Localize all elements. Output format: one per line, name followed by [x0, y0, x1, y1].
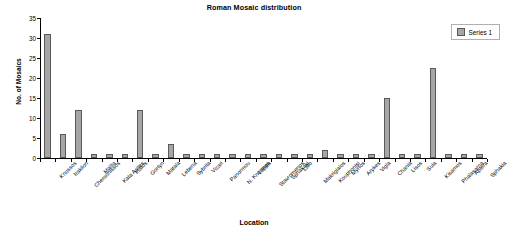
- bar: [106, 154, 112, 158]
- bar: [199, 154, 205, 158]
- chart-title: Roman Mosaic distribution: [0, 3, 508, 12]
- x-tick-label: Lebena: [180, 160, 197, 177]
- bar: [152, 154, 158, 158]
- x-axis-line: [40, 158, 487, 159]
- bar: [368, 154, 374, 158]
- y-tick-label: 30: [29, 35, 36, 42]
- y-tick-label: 25: [29, 55, 36, 62]
- x-axis-title: Location: [0, 219, 508, 226]
- bar-chart: Roman Mosaic distribution No. of Mosaics…: [0, 0, 508, 234]
- bar: [214, 154, 220, 158]
- bar: [91, 154, 97, 158]
- x-tick-label: Matala: [165, 160, 181, 176]
- x-tick-label: Lappa: [257, 160, 272, 175]
- y-tick-label: 20: [29, 75, 36, 82]
- y-tick-label: 15: [29, 95, 36, 102]
- chart-legend: Series 1: [451, 24, 500, 40]
- bar: [137, 110, 143, 158]
- x-tick-label: Gortyn: [149, 160, 165, 176]
- bar: [414, 154, 420, 158]
- bar: [75, 110, 81, 158]
- bar: [122, 154, 128, 158]
- y-tick-label: 10: [29, 115, 36, 122]
- bar: [60, 134, 66, 158]
- bar: [445, 154, 451, 158]
- x-tick-mark: [487, 159, 488, 162]
- x-tick-label: Sybrita: [196, 160, 213, 177]
- bar: [476, 154, 482, 158]
- y-tick-label: 0: [32, 155, 36, 162]
- x-tick-label: Kisamos: [443, 160, 462, 179]
- bar: [168, 144, 174, 158]
- x-tick-label: Myrtos: [349, 160, 365, 176]
- bar: [229, 154, 235, 158]
- y-axis-title: No. of Mosaics: [15, 37, 22, 127]
- bar: [276, 154, 282, 158]
- x-tick-label: Inatos: [133, 160, 148, 175]
- bar: [44, 34, 50, 158]
- bar: [337, 154, 343, 158]
- bar: [399, 154, 405, 158]
- bars-layer: [40, 18, 487, 158]
- y-tick-label: 5: [32, 135, 36, 142]
- bar: [384, 98, 390, 158]
- bar: [260, 154, 266, 158]
- bar: [291, 154, 297, 158]
- bar: [353, 154, 359, 158]
- bar: [322, 150, 328, 158]
- x-tick-label: Suia: [425, 160, 437, 172]
- bar: [245, 154, 251, 158]
- y-tick-label: 35: [29, 15, 36, 22]
- bar: [461, 154, 467, 158]
- x-tick-label: Aptera: [473, 160, 489, 176]
- plot-area: 05101520253035: [40, 18, 487, 159]
- series-1-swatch: [457, 28, 465, 36]
- x-tick-label: Vigla: [379, 160, 392, 173]
- bar: [307, 154, 313, 158]
- x-axis-labels: KnossosIraklionChersonissosMalliaKata As…: [40, 160, 487, 218]
- legend-label: Series 1: [469, 29, 492, 36]
- x-tick-label: Vizari: [210, 160, 224, 174]
- bar: [430, 68, 436, 158]
- bar: [183, 154, 189, 158]
- x-tick-label: Sphakia: [489, 160, 508, 179]
